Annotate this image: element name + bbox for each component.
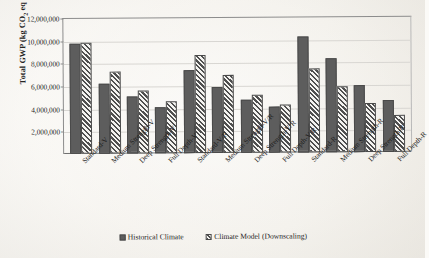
x-axis-tick-label: Full Depth-V/R bbox=[281, 158, 287, 164]
x-axis-tick-label: Medium Strength-R bbox=[338, 157, 344, 163]
x-axis-tick-label: Standard-V bbox=[80, 159, 86, 165]
y-axis-title-post: eq / year) bbox=[18, 0, 27, 13]
bar-group bbox=[322, 17, 351, 152]
y-axis-title-pre: Total GWP (kg CO bbox=[18, 16, 27, 84]
x-axis-tick-label: Full Depth-R bbox=[395, 157, 401, 163]
y-axis-tick-label: 6,000,000 bbox=[31, 82, 60, 91]
x-axis-tick-label: Full Depth-V bbox=[166, 158, 172, 164]
bar[interactable] bbox=[223, 75, 234, 153]
x-axis-tick-label: Standard-R bbox=[309, 157, 315, 163]
chart-legend: Historical ClimateClimate Model (Downsca… bbox=[1, 231, 426, 243]
x-axis-labels: Standard-VMedium Strength-VDeep Strength… bbox=[63, 155, 412, 219]
y-axis-tick-label: 8,000,000 bbox=[31, 60, 60, 69]
y-axis-tick-label: 4,000,000 bbox=[31, 105, 60, 114]
bar-group bbox=[66, 19, 95, 154]
legend-item[interactable]: Historical Climate bbox=[119, 232, 183, 241]
legend-item[interactable]: Climate Model (Downscaling) bbox=[206, 231, 307, 241]
bar-chart: Total GWP (kg CO2 eq / year) 2,000,0004,… bbox=[0, 0, 426, 258]
legend-swatch bbox=[119, 234, 125, 240]
x-axis-tick-label: Medium Strength-V bbox=[109, 159, 115, 165]
x-axis-tick-label: Standard-V/R bbox=[195, 158, 201, 164]
y-axis-tick-label: 10,000,000 bbox=[27, 37, 59, 46]
legend-label: Historical Climate bbox=[128, 232, 184, 241]
y-axis-tick-label: 2,000,000 bbox=[31, 128, 60, 137]
bar[interactable] bbox=[337, 86, 348, 152]
x-axis-tick-label: Deep Strength-V bbox=[138, 158, 144, 164]
bar-group bbox=[95, 19, 124, 154]
legend-swatch bbox=[206, 234, 212, 240]
x-axis-tick-label: Deep Strength-R bbox=[366, 157, 372, 163]
plot-area: 2,000,0004,000,0006,000,0008,000,00010,0… bbox=[62, 16, 412, 154]
x-axis-tick-label: Deep Strength-V/R bbox=[252, 158, 258, 164]
x-axis-tick-label: Medium Strength-V/R bbox=[223, 158, 229, 164]
bar[interactable] bbox=[70, 44, 82, 154]
legend-label: Climate Model (Downscaling) bbox=[214, 231, 307, 241]
y-axis-tick-label: 12,000,000 bbox=[27, 14, 59, 23]
bar[interactable] bbox=[109, 72, 120, 154]
bar-groups bbox=[63, 17, 411, 154]
bar[interactable] bbox=[81, 43, 93, 154]
